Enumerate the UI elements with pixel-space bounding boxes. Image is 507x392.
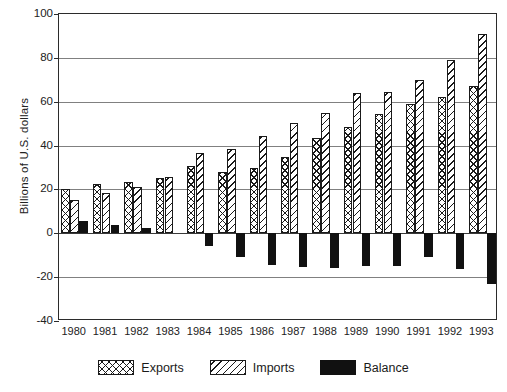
bar-exports: [250, 168, 258, 234]
bar-imports: [290, 123, 298, 234]
chart-legend: ExportsImportsBalance: [0, 360, 507, 375]
bar-exports: [375, 114, 383, 234]
legend-label-imports: Imports: [253, 361, 295, 375]
x-axis-labels: 1980198119821983198419851986198719881989…: [58, 325, 497, 343]
bar-exports: [218, 172, 226, 233]
bar-exports: [344, 127, 352, 233]
y-tick-label: 0: [7, 227, 53, 239]
bar-balance: [142, 228, 150, 233]
bar-imports: [70, 200, 78, 233]
bar-exports: [406, 104, 414, 233]
y-tick-label: -20: [7, 271, 53, 283]
y-tick-label: 80: [7, 52, 53, 64]
bar-exports: [61, 189, 69, 233]
bar-group: [218, 14, 244, 319]
bar-exports: [438, 97, 446, 233]
legend-swatch-exports: [98, 360, 134, 375]
bar-imports: [196, 153, 204, 233]
legend-item-imports[interactable]: Imports: [210, 360, 295, 375]
bar-group: [438, 14, 464, 319]
bar-group: [250, 14, 276, 319]
legend-item-exports[interactable]: Exports: [98, 360, 183, 375]
bar-imports: [415, 80, 423, 234]
bar-group: [469, 14, 495, 319]
bar-balance: [362, 233, 370, 266]
bar-balance: [236, 233, 244, 257]
bar-group: [61, 14, 87, 319]
x-tick-label: 1993: [461, 325, 501, 338]
bar-balance: [330, 233, 338, 268]
bar-group: [281, 14, 307, 319]
bar-group: [375, 14, 401, 319]
bar-exports: [281, 157, 289, 234]
bar-exports: [156, 178, 164, 233]
y-tick-mark: [54, 321, 59, 322]
bar-balance: [268, 233, 276, 265]
bar-group: [312, 14, 338, 319]
bar-balance: [393, 233, 401, 266]
bar-imports: [384, 92, 392, 233]
bar-balance: [299, 233, 307, 267]
bar-group: [187, 14, 213, 319]
bar-imports: [478, 34, 486, 234]
bar-group: [344, 14, 370, 319]
legend-label-balance: Balance: [363, 361, 408, 375]
bar-balance: [424, 233, 432, 257]
bar-imports: [259, 136, 267, 234]
bar-balance: [79, 221, 87, 233]
bar-exports: [312, 138, 320, 233]
bar-balance: [487, 233, 495, 283]
bar-imports: [321, 113, 329, 234]
y-tick-label: 60: [7, 96, 53, 108]
bar-balance: [205, 233, 213, 246]
legend-swatch-imports: [210, 360, 246, 375]
y-tick-label: 20: [7, 183, 53, 195]
bar-exports: [93, 184, 101, 233]
bar-group: [156, 14, 182, 319]
bar-groups: [59, 14, 496, 319]
bar-imports: [227, 149, 235, 233]
bar-imports: [133, 187, 141, 233]
bar-group: [93, 14, 119, 319]
bar-group: [124, 14, 150, 319]
bar-imports: [102, 193, 110, 234]
bar-imports: [165, 177, 173, 233]
bar-imports: [447, 60, 455, 233]
bar-exports: [124, 182, 132, 234]
bar-exports: [187, 166, 195, 233]
bar-balance: [111, 225, 119, 234]
bar-imports: [353, 93, 361, 233]
legend-swatch-balance: [320, 360, 356, 375]
bar-exports: [469, 86, 477, 233]
y-tick-label: -40: [7, 315, 53, 327]
legend-label-exports: Exports: [141, 361, 183, 375]
y-tick-label: 40: [7, 140, 53, 152]
plot-area: -40-20020406080100: [58, 13, 497, 320]
y-tick-label: 100: [7, 8, 53, 20]
chart-container: Billions of U.S. dollars -40-20020406080…: [0, 0, 507, 392]
bar-group: [406, 14, 432, 319]
legend-item-balance[interactable]: Balance: [320, 360, 408, 375]
bar-balance: [456, 233, 464, 269]
